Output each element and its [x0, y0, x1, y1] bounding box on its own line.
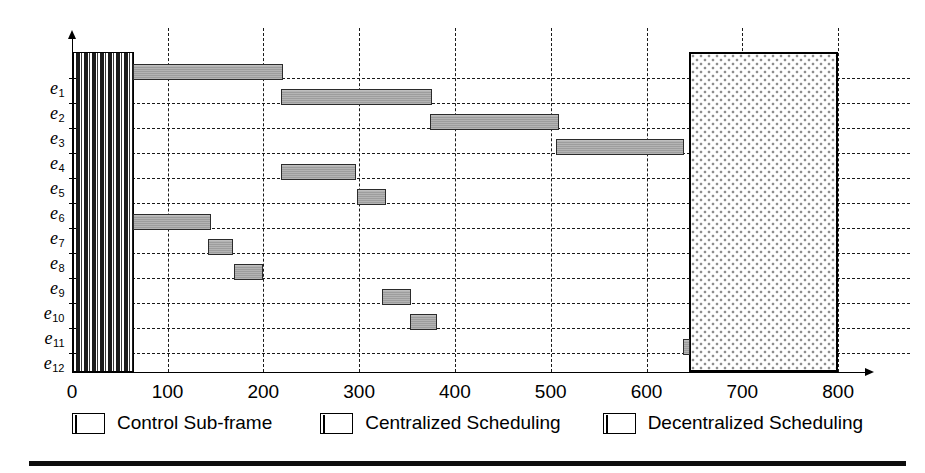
y-label-sub-e6: 6	[58, 212, 64, 224]
gridline-vertical-500	[551, 28, 552, 372]
bar-e11	[410, 314, 437, 330]
bar-e5	[281, 164, 356, 180]
plot-area: e1 e2 e3 e4 e5 e6 e7 e8 e9 e10 e11 e12 0…	[0, 0, 925, 473]
x-tick-label-400: 400	[439, 381, 471, 403]
y-label-text-e11: e	[45, 328, 53, 348]
y-label-sub-e7: 7	[58, 237, 64, 249]
swatch-fill	[606, 415, 608, 434]
y-label-sub-e3: 3	[58, 137, 64, 149]
gridline-vertical-600	[647, 28, 648, 372]
y-axis-label-e7: e7	[16, 228, 64, 249]
swatch-fill	[323, 415, 325, 434]
y-label-text-e7: e	[50, 228, 58, 248]
bar-e3	[430, 114, 559, 130]
y-label-text-e2: e	[50, 103, 58, 123]
legend-label-control-subframe: Control Sub-frame	[117, 412, 272, 434]
chart-legend: Control Sub-frame Centralized Scheduling…	[72, 412, 863, 434]
y-axis-label-e4: e4	[16, 153, 64, 174]
y-label-sub-e2: 2	[58, 112, 64, 124]
y-tick-e2	[69, 103, 76, 104]
y-tick-e10	[69, 303, 76, 304]
y-label-text-e5: e	[50, 178, 58, 198]
y-label-sub-e12: 12	[52, 362, 64, 374]
y-label-sub-e1: 1	[58, 87, 64, 99]
bottom-divider-rule	[29, 461, 906, 466]
x-tick-label-100: 100	[152, 381, 184, 403]
y-tick-e5	[69, 178, 76, 179]
bar-e1	[133, 64, 283, 80]
y-tick-e7	[69, 228, 76, 229]
x-tick-label-800: 800	[822, 381, 854, 403]
y-label-sub-e8: 8	[58, 262, 64, 274]
y-label-text-e10: e	[44, 303, 52, 323]
gridline-vertical-800	[838, 28, 839, 372]
y-tick-e9	[69, 278, 76, 279]
y-label-sub-e11: 11	[53, 337, 64, 349]
gridline-vertical-400	[455, 28, 456, 372]
x-tick-label-200: 200	[247, 381, 279, 403]
y-axis-label-e6: e6	[16, 203, 64, 224]
bar-e9	[234, 264, 263, 280]
y-label-text-e9: e	[50, 278, 58, 298]
x-axis-arrow	[865, 368, 874, 376]
y-axis-label-e2: e2	[16, 103, 64, 124]
y-label-text-e3: e	[50, 128, 58, 148]
y-tick-e12	[69, 353, 76, 354]
y-tick-e3	[69, 128, 76, 129]
y-label-text-e8: e	[50, 253, 58, 273]
control-subframe-swatch-icon	[72, 413, 105, 434]
x-tick-label-0: 0	[67, 381, 78, 403]
y-label-sub-e10: 10	[52, 312, 64, 324]
y-label-text-e12: e	[44, 353, 52, 373]
y-axis-label-e12: e12	[10, 353, 64, 374]
y-label-text-e1: e	[50, 78, 58, 98]
legend-item-centralized: Centralized Scheduling	[320, 412, 560, 434]
x-tick-label-700: 700	[726, 381, 758, 403]
y-label-sub-e9: 9	[58, 287, 64, 299]
legend-item-control-subframe: Control Sub-frame	[72, 412, 272, 434]
y-axis-label-e1: e1	[16, 78, 64, 99]
y-tick-e11	[69, 328, 76, 329]
x-tick-label-300: 300	[343, 381, 375, 403]
y-label-sub-e4: 4	[58, 162, 64, 174]
y-axis-line	[72, 38, 73, 372]
bar-e10	[382, 289, 411, 305]
bar-e12	[683, 339, 690, 355]
y-axis-label-e3: e3	[16, 128, 64, 149]
bar-e2	[281, 89, 432, 105]
y-axis-label-e8: e8	[16, 253, 64, 274]
legend-label-decentralized: Decentralized Scheduling	[648, 412, 863, 434]
legend-label-centralized: Centralized Scheduling	[365, 412, 560, 434]
y-axis-label-e11: e11	[10, 328, 64, 349]
bar-e6	[357, 189, 386, 205]
decentralized-scheduling-block	[689, 52, 838, 372]
bar-e8	[208, 239, 233, 255]
bar-e7	[133, 214, 211, 230]
y-label-text-e6: e	[50, 203, 58, 223]
scheduling-gantt-chart: e1 e2 e3 e4 e5 e6 e7 e8 e9 e10 e11 e12 0…	[0, 0, 925, 473]
bar-e4	[556, 139, 684, 155]
control-subframe-block	[73, 52, 134, 372]
y-axis-label-e10: e10	[10, 303, 64, 324]
y-label-sub-e5: 5	[58, 187, 64, 199]
y-tick-e6	[69, 203, 76, 204]
centralized-swatch-icon	[320, 413, 353, 434]
swatch-fill	[75, 415, 77, 434]
x-tick-label-600: 600	[631, 381, 663, 403]
y-tick-e4	[69, 153, 76, 154]
legend-item-decentralized: Decentralized Scheduling	[603, 412, 863, 434]
y-tick-e8	[69, 253, 76, 254]
decentralized-swatch-icon	[603, 413, 636, 434]
y-tick-e1	[69, 78, 76, 79]
y-axis-arrow	[68, 30, 76, 39]
y-axis-label-e5: e5	[16, 178, 64, 199]
x-tick-label-500: 500	[535, 381, 567, 403]
y-label-text-e4: e	[50, 153, 58, 173]
y-axis-label-e9: e9	[16, 278, 64, 299]
x-axis-line	[72, 372, 867, 373]
